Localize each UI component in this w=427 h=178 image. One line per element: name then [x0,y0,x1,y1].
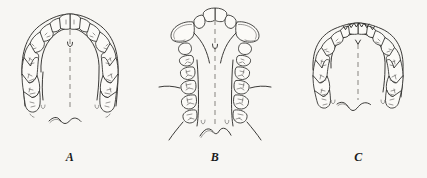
panel-caption-a: A [0,150,140,165]
arch-diagram-a [0,0,140,150]
arch-diagram-c [290,0,427,150]
panel-caption-c: C [290,150,427,165]
arch-diagram-b [140,0,290,150]
figure-panel-c: C [290,0,427,178]
figure-plate: A [0,0,427,178]
figure-panel-b: B [140,0,290,178]
figure-panel-a: A [0,0,140,178]
panel-caption-b: B [140,150,290,165]
